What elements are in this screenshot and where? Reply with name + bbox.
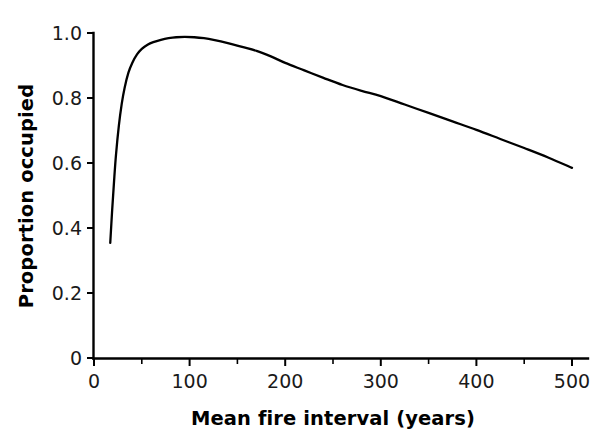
line-chart-plot: Proportion occupied Mean fire interval (… [0, 0, 597, 437]
x-axis-title: Mean fire interval (years) [191, 407, 475, 430]
y-tick-label: 0.8 [52, 87, 82, 109]
y-tick-label: 0.4 [52, 217, 82, 239]
x-tick-label: 0 [88, 370, 100, 392]
x-tick-label: 100 [171, 370, 207, 392]
y-tick-label: 0 [70, 347, 82, 369]
y-tick-label: 0.6 [52, 152, 82, 174]
y-tick-label: 0.2 [52, 282, 82, 304]
x-tick-label: 400 [458, 370, 494, 392]
x-tick-label: 200 [267, 370, 303, 392]
y-axis-tick-labels: 1.0 0.8 0.6 0.4 0.2 0 [52, 22, 82, 369]
data-series-line [110, 37, 572, 243]
y-axis-title: Proportion occupied [15, 84, 38, 308]
x-tick-label: 500 [554, 370, 590, 392]
x-axis-tick-labels: 0 100 200 300 400 500 [88, 370, 590, 392]
y-tick-label: 1.0 [52, 22, 82, 44]
x-tick-label: 300 [363, 370, 399, 392]
chart-figure: Proportion occupied Mean fire interval (… [0, 0, 597, 437]
